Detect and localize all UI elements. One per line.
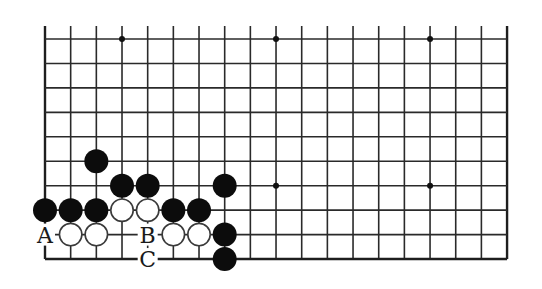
white-stone xyxy=(111,199,133,221)
white-stone xyxy=(136,199,158,221)
white-stone xyxy=(188,223,210,245)
position-label-c: C xyxy=(139,247,156,272)
black-stone xyxy=(213,174,237,198)
black-stone xyxy=(84,149,108,173)
black-stone xyxy=(136,174,160,198)
white-stone xyxy=(85,223,107,245)
black-stone xyxy=(59,198,83,222)
position-label-a: A xyxy=(36,223,54,248)
star-point-icon xyxy=(427,36,433,42)
star-point-icon xyxy=(273,183,279,189)
black-stone xyxy=(213,223,237,247)
black-stone xyxy=(161,198,185,222)
white-stone xyxy=(59,223,81,245)
star-point-icon xyxy=(273,36,279,42)
position-label-b: B xyxy=(140,223,156,248)
black-stone xyxy=(110,174,134,198)
go-board-diagram: ABC xyxy=(0,0,542,289)
white-stone xyxy=(162,223,184,245)
black-stone xyxy=(213,247,237,271)
board-grid xyxy=(45,26,507,259)
star-point-icon xyxy=(427,183,433,189)
black-stone xyxy=(33,198,57,222)
black-stone xyxy=(187,198,211,222)
black-stone xyxy=(84,198,108,222)
star-point-icon xyxy=(119,36,125,42)
